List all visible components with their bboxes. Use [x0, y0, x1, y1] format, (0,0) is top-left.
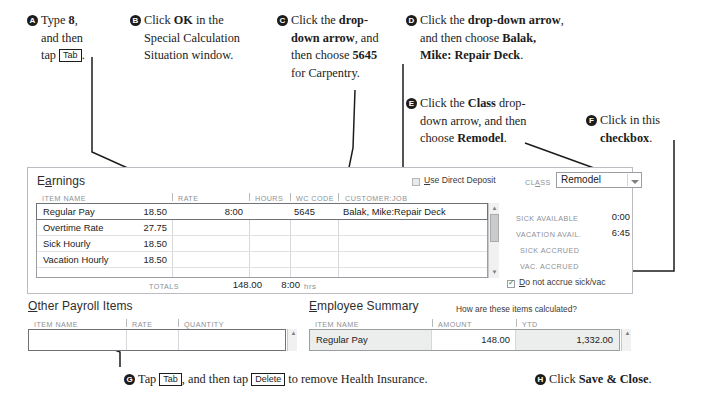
grid-hline-4: [37, 267, 487, 268]
sick-available-value: 0:00: [584, 211, 630, 222]
vacation-avail-label: VACATION AVAIL.: [516, 230, 581, 239]
col-customer-job: CUSTOMER:JOB: [345, 194, 407, 203]
employee-summary-scrollbar[interactable]: ▲: [621, 329, 631, 351]
cell-hours-0: 8:00: [197, 206, 243, 217]
callout-b: BClick OK in the Special Calculation Sit…: [130, 12, 260, 65]
do-not-accrue-checkbox[interactable]: [507, 280, 515, 288]
cell-summary-amount-0: 148.00: [440, 334, 510, 345]
other-hdr-div-2: [178, 319, 179, 327]
totals-hours: 8:00: [268, 279, 300, 290]
summary-hdr-div-1: [432, 319, 433, 327]
callout-d-line-0: DClick the drop-down arrow,: [406, 13, 564, 27]
col-item-name: ITEM NAME: [42, 194, 86, 203]
employee-summary-panel: Employee Summary How are these items cal…: [308, 299, 633, 361]
grid-hline-2: [37, 235, 487, 236]
callout-a-line-0: AType 8,: [27, 13, 78, 27]
callout-h: HClick Save & Close.: [535, 371, 651, 389]
callout-b-line-2: Situation window.: [130, 47, 260, 65]
summary-col-amount: AMOUNT: [438, 320, 472, 329]
class-combobox[interactable]: Remodel: [556, 172, 642, 188]
col-rate: RATE: [178, 194, 198, 203]
other-col-quantity: QUANTITY: [184, 320, 224, 329]
totals-label: TOTALS: [149, 282, 179, 291]
other-hdr-div-1: [126, 319, 127, 327]
callout-e-line-1: down arrow, and then: [406, 113, 566, 131]
col-wc-code: WC CODE: [296, 194, 334, 203]
do-not-accrue-label: Do not accrue sick/vac: [519, 277, 605, 287]
callout-c-line-1: down arrow, and: [277, 30, 395, 48]
totals-amount: 148.00: [198, 279, 262, 290]
callout-badge-g: G: [124, 374, 135, 385]
vacation-avail-value: 6:45: [584, 227, 630, 238]
hdr-div-1: [172, 193, 173, 201]
sick-available-label: SICK AVAILABLE: [516, 214, 578, 223]
summary-col-item-name: ITEM NAME: [315, 320, 359, 329]
callout-g-line-0: GTap Tab, and then tap Delete to remove …: [124, 372, 428, 386]
summary-col-ytd: YTD: [522, 320, 538, 329]
chevron-down-icon[interactable]: [627, 174, 640, 186]
scroll-up-icon-summary[interactable]: ▲: [623, 329, 632, 338]
scroll-up-icon[interactable]: ▲: [490, 204, 499, 213]
cell-summary-item-name-0: Regular Pay: [316, 334, 368, 345]
hdr-div-4: [338, 193, 339, 201]
cell-rate-3: 18.50: [97, 254, 167, 265]
totals-hours-unit: hrs: [304, 282, 316, 291]
other-payroll-items-title: Other Payroll Items: [28, 299, 133, 313]
other-grid-vline-1: [126, 330, 127, 350]
class-value: Remodel: [561, 174, 601, 185]
cell-item-name-0: Regular Pay: [43, 206, 95, 217]
cell-item-name-2: Sick Hourly: [43, 238, 90, 249]
cell-rate-0: 18.50: [97, 206, 167, 217]
callout-b-line-1: Special Calculation: [130, 30, 260, 48]
summary-grid-vline-2: [515, 330, 516, 350]
callout-badge-d: D: [406, 15, 417, 26]
grid-hline-3: [37, 251, 487, 252]
callout-d: DClick the drop-down arrow, and then cho…: [406, 12, 586, 65]
summary-hdr-div-2: [516, 319, 517, 327]
callout-badge-a: A: [27, 15, 38, 26]
how-calculated-link[interactable]: How are these items calculated?: [456, 304, 577, 314]
key-tab: Tab: [59, 49, 82, 62]
cell-wc-code-0: 5645: [294, 206, 315, 217]
callout-g: GTap Tab, and then tap Delete to remove …: [124, 371, 428, 389]
callout-d-line-1: and then choose Balak,: [406, 30, 586, 48]
callout-badge-f: F: [586, 115, 597, 126]
callout-a-line-2: tap Tab.: [27, 47, 113, 65]
earnings-scrollbar-thumb[interactable]: [490, 214, 499, 242]
other-payroll-grid[interactable]: [28, 329, 286, 351]
callout-c-line-2: then choose 5645: [277, 47, 395, 65]
callout-badge-b: B: [130, 15, 141, 26]
scroll-up-icon-other[interactable]: ▲: [289, 329, 298, 338]
use-direct-deposit-label: Use Direct Deposit: [424, 175, 496, 185]
callout-a: AType 8, and then tap Tab.: [27, 12, 113, 65]
callout-h-line-0: HClick Save & Close.: [535, 372, 651, 386]
callout-f: FClick in this checkbox.: [586, 112, 696, 147]
callout-c: CClick the drop- down arrow, and then ch…: [277, 12, 395, 82]
key-tab-2: Tab: [159, 373, 182, 386]
cell-customer-job-0: Balak, Mike:Repair Deck: [343, 206, 446, 217]
paycheck-detail-panel: Earnings Use Direct Deposit CLASS Remode…: [27, 167, 633, 294]
earnings-scrollbar[interactable]: ▲ ▼: [488, 203, 499, 278]
callout-e-line-2: choose Remodel.: [406, 130, 566, 148]
other-col-item-name: ITEM NAME: [34, 320, 78, 329]
employee-summary-title: Employee Summary: [309, 299, 419, 313]
other-grid-vline-2: [178, 330, 179, 350]
scroll-down-icon[interactable]: ▼: [490, 268, 499, 277]
callout-f-line-0: FClick in this: [586, 113, 660, 127]
key-delete: Delete: [251, 373, 285, 386]
callout-d-line-2: Mike: Repair Deck.: [406, 47, 586, 65]
employee-summary-grid[interactable]: Regular Pay 148.00 1,332.00: [309, 329, 620, 351]
cell-rate-1: 27.75: [97, 222, 167, 233]
callout-b-line-0: BClick OK in the: [130, 13, 224, 27]
other-col-rate: RATE: [132, 320, 152, 329]
earnings-grid[interactable]: Regular Pay 18.50 8:00 5645 Balak, Mike:…: [36, 203, 488, 278]
use-direct-deposit-checkbox[interactable]: [412, 178, 420, 186]
callout-badge-c: C: [277, 15, 288, 26]
callout-c-line-0: CClick the drop-: [277, 13, 368, 27]
vac-accrued-label: VAC. ACCRUED: [520, 262, 579, 271]
other-payroll-scrollbar[interactable]: ▲: [287, 329, 297, 351]
sick-accrued-label: SICK ACCRUED: [520, 246, 579, 255]
other-payroll-items-panel: Other Payroll Items ITEM NAME RATE QUANT…: [27, 299, 304, 361]
callout-badge-h: H: [535, 374, 546, 385]
callout-e: EClick the Class drop- down arrow, and t…: [406, 95, 566, 148]
